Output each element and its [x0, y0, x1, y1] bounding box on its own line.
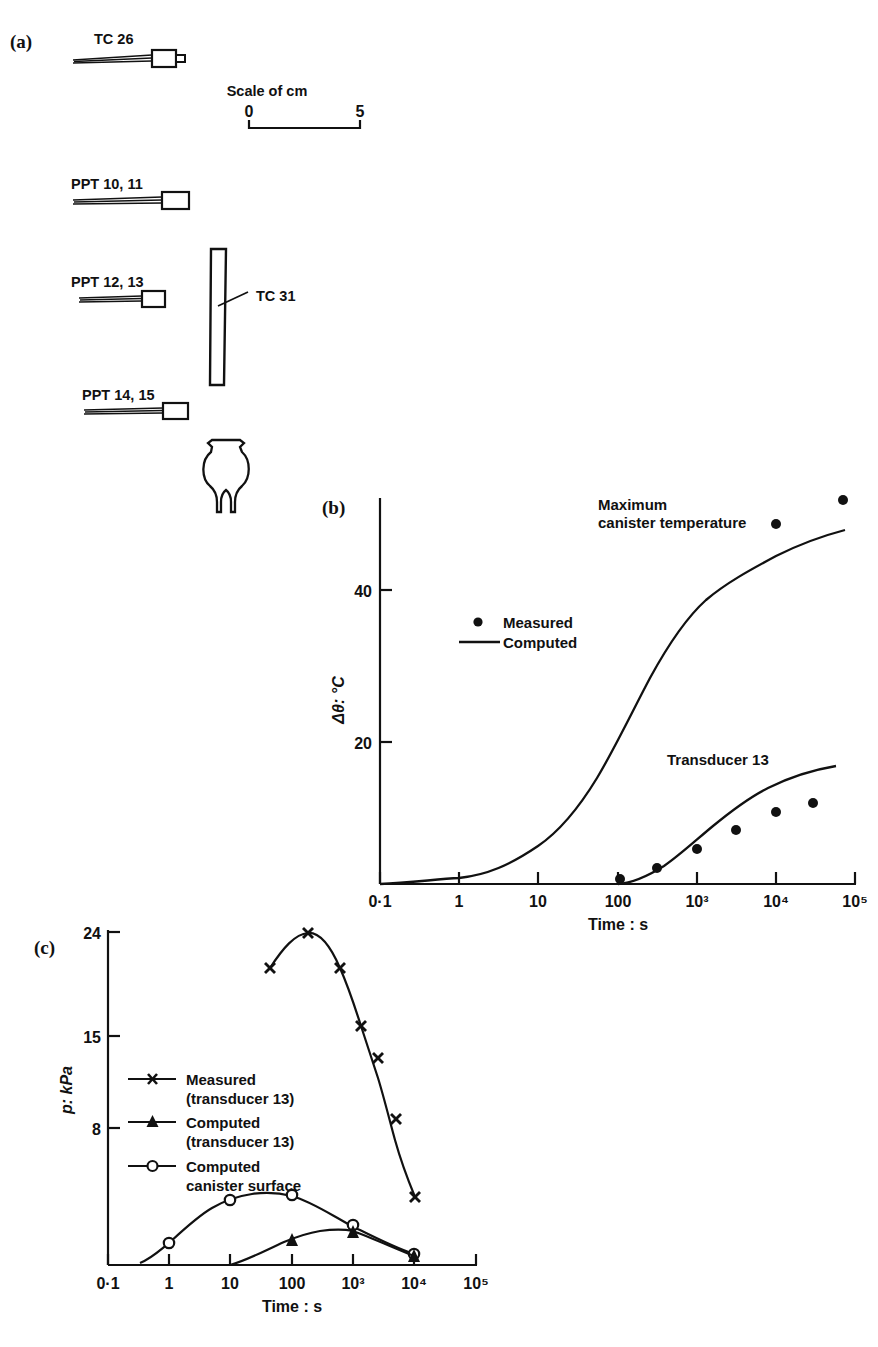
svg-text:p: kPa: p: kPa	[58, 1066, 75, 1115]
panel-c-xtick-3: 100	[279, 1275, 306, 1292]
panel-c-tag: (c)	[34, 937, 55, 959]
legend-sublabel-computed-surface: canister surface	[186, 1177, 301, 1194]
legend-sublabel-measured: (transducer 13)	[186, 1090, 294, 1107]
panel-c-curve-canister-surface	[140, 1193, 414, 1263]
panel-c: (c) 24 15 8 p: kPa 0·1 1 10	[0, 0, 878, 1347]
panel-c-legend: Measured (transducer 13) Computed (trans…	[128, 1071, 301, 1194]
panel-c-markers-measured	[265, 928, 420, 1202]
legend-label-computed-surface: Computed	[186, 1158, 260, 1175]
legend-marker-open-circle	[148, 1161, 158, 1171]
panel-c-xtick-6: 10⁵	[463, 1275, 488, 1292]
panel-c-xlabel: Time : s	[262, 1298, 322, 1315]
panel-c-curve-computed-transducer	[230, 1230, 414, 1266]
panel-c-ylabel: p: kPa	[58, 1066, 75, 1115]
figure-root: (a) TC 26 Scale of cm 0 5 PPT 10, 11	[0, 0, 878, 1347]
panel-c-xtick-1: 1	[165, 1275, 174, 1292]
panel-c-curve-measured	[270, 933, 415, 1197]
panel-c-ytick-15: 15	[83, 1029, 101, 1046]
legend-label-computed-transducer: Computed	[186, 1114, 260, 1131]
legend-label-measured: Measured	[186, 1071, 256, 1088]
panel-c-ytick-8: 8	[92, 1121, 101, 1138]
legend-sublabel-computed-transducer: (transducer 13)	[186, 1133, 294, 1150]
panel-c-xtick-0: 0·1	[96, 1275, 119, 1292]
panel-c-ytick-24: 24	[83, 925, 101, 942]
panel-c-xtick-2: 10	[221, 1275, 239, 1292]
panel-c-xtick-5: 10⁴	[401, 1275, 427, 1292]
panel-c-markers-canister-surface	[164, 1190, 419, 1259]
panel-c-xtick-4: 10³	[341, 1275, 364, 1292]
